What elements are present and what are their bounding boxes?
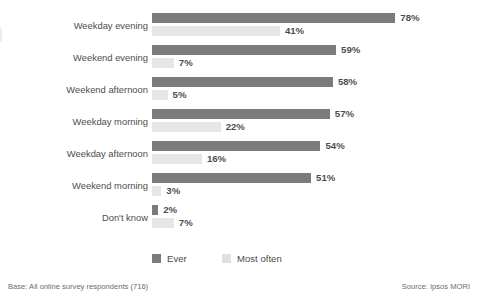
bar-track: 78%41%	[152, 10, 479, 42]
bar-track: 57%22%	[152, 106, 479, 138]
bar-value-label: 57%	[335, 107, 354, 121]
bar-ever[interactable]	[152, 205, 158, 215]
bar-value-label: 16%	[207, 152, 226, 166]
category-label: Weekend evening	[0, 42, 148, 74]
category-label: Weekday morning	[0, 106, 148, 138]
bar-value-label: 7%	[179, 216, 193, 230]
bar-group: Weekend morning51%3%	[0, 170, 479, 202]
legend-swatch-ever-icon	[152, 254, 161, 263]
category-label: Weekend morning	[0, 170, 148, 202]
bar-value-label: 41%	[285, 24, 304, 38]
plot-area: Weekday evening78%41%Weekend evening59%7…	[0, 10, 479, 238]
bar-value-label: 51%	[316, 171, 335, 185]
bar-track: 58%5%	[152, 74, 479, 106]
legend-item-ever[interactable]: Ever	[152, 248, 187, 262]
bar-value-label: 58%	[338, 75, 357, 89]
bar-group: Weekday evening78%41%	[0, 10, 479, 42]
footer-source-note: Source: Ipsos MORI	[402, 282, 470, 291]
bar-most[interactable]	[152, 154, 202, 164]
bar-group: Don't know2%7%	[0, 202, 479, 234]
bar-most[interactable]	[152, 122, 221, 132]
bar-ever[interactable]	[152, 13, 395, 23]
bar-ever[interactable]	[152, 45, 336, 55]
bar-most[interactable]	[152, 218, 174, 228]
bar-ever[interactable]	[152, 173, 311, 183]
bar-value-label: 22%	[226, 120, 245, 134]
bar-ever[interactable]	[152, 141, 320, 151]
legend-item-most-often[interactable]: Most often	[222, 248, 282, 262]
bar-value-label: 78%	[400, 11, 419, 25]
legend-swatch-most-often-icon	[222, 254, 231, 263]
bar-value-label: 54%	[325, 139, 344, 153]
bar-track: 2%7%	[152, 202, 479, 234]
bar-ever[interactable]	[152, 109, 330, 119]
bar-group: Weekend afternoon58%5%	[0, 74, 479, 106]
bar-value-label: 3%	[166, 184, 180, 198]
legend-label-ever: Ever	[167, 253, 187, 264]
category-label: Weekend afternoon	[0, 74, 148, 106]
category-label: Don't know	[0, 202, 148, 234]
chart-footer: Base: All online survey respondents (716…	[0, 282, 479, 296]
bar-value-label: 7%	[179, 56, 193, 70]
bar-most[interactable]	[152, 90, 168, 100]
bar-chart: Weekday evening78%41%Weekend evening59%7…	[0, 0, 479, 304]
bar-value-label: 59%	[341, 43, 360, 57]
bar-group: Weekday afternoon54%16%	[0, 138, 479, 170]
bar-track: 51%3%	[152, 170, 479, 202]
footer-base-note: Base: All online survey respondents (716…	[8, 282, 148, 291]
category-label: Weekday evening	[0, 10, 148, 42]
bar-most[interactable]	[152, 58, 174, 68]
bar-track: 54%16%	[152, 138, 479, 170]
bar-value-label: 5%	[173, 88, 187, 102]
legend-label-most-often: Most often	[237, 253, 282, 264]
bar-most[interactable]	[152, 186, 161, 196]
category-label: Weekday afternoon	[0, 138, 148, 170]
bar-group: Weekend evening59%7%	[0, 42, 479, 74]
bar-ever[interactable]	[152, 77, 333, 87]
bar-track: 59%7%	[152, 42, 479, 74]
bar-value-label: 2%	[163, 203, 177, 217]
bar-most[interactable]	[152, 26, 280, 36]
bar-group: Weekday morning57%22%	[0, 106, 479, 138]
